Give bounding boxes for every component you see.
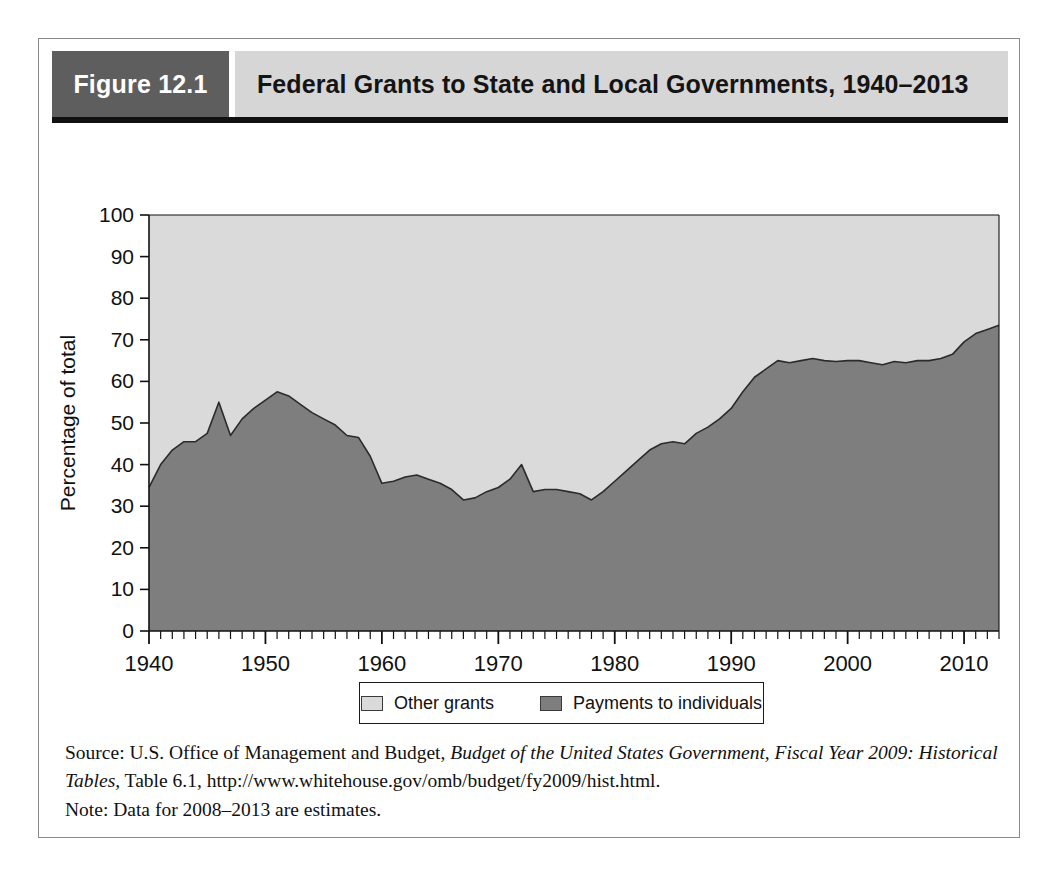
data-note: Note: Data for 2008–2013 are estimates. [65, 796, 1005, 824]
y-tick-label: 10 [111, 577, 134, 600]
chart-plot-region: 0102030405060708090100194019501960197019… [39, 135, 1021, 695]
figure-number-label: Figure 12.1 [73, 70, 207, 99]
other-grants-swatch [361, 696, 383, 711]
y-tick-label: 0 [122, 619, 134, 642]
stacked-area-chart: 0102030405060708090100194019501960197019… [39, 135, 1021, 695]
y-tick-label: 40 [111, 453, 134, 476]
payments-to-individuals-swatch [540, 696, 562, 711]
x-tick-label: 1970 [474, 651, 523, 676]
y-tick-label: 60 [111, 369, 134, 392]
x-tick-label: 1990 [707, 651, 756, 676]
x-tick-label: 1950 [241, 651, 290, 676]
header-divider-rule [52, 117, 1008, 123]
chart-legend: Other grants Payments to individuals [359, 682, 764, 724]
figure-number-box: Figure 12.1 [52, 51, 229, 117]
x-tick-label: 1940 [125, 651, 174, 676]
x-tick-label: 1980 [590, 651, 639, 676]
y-tick-label: 70 [111, 328, 134, 351]
legend-item-other-grants: Other grants [361, 693, 494, 714]
source-italic-title: Budget of the United States Government, … [65, 742, 998, 791]
y-tick-label: 100 [99, 203, 134, 226]
y-tick-label: 50 [111, 411, 134, 434]
figure-frame: Figure 12.1 Federal Grants to State and … [38, 38, 1020, 838]
x-tick-label: 2010 [940, 651, 989, 676]
legend-label-other-grants: Other grants [394, 693, 494, 714]
x-tick-label: 1960 [357, 651, 406, 676]
y-tick-label: 90 [111, 245, 134, 268]
legend-label-payments-to-individuals: Payments to individuals [573, 693, 762, 714]
y-axis-title: Percentage of total [56, 335, 79, 511]
y-tick-label: 30 [111, 494, 134, 517]
figure-title: Federal Grants to State and Local Govern… [235, 70, 968, 99]
figure-header: Figure 12.1 Federal Grants to State and … [52, 51, 1008, 123]
source-citation: Source: U.S. Office of Management and Bu… [65, 739, 1005, 796]
figure-title-box: Federal Grants to State and Local Govern… [235, 51, 1008, 117]
legend-item-payments-to-individuals: Payments to individuals [540, 693, 762, 714]
y-tick-label: 20 [111, 536, 134, 559]
y-tick-label: 80 [111, 286, 134, 309]
source-note-block: Source: U.S. Office of Management and Bu… [65, 739, 1005, 824]
x-tick-label: 2000 [823, 651, 872, 676]
